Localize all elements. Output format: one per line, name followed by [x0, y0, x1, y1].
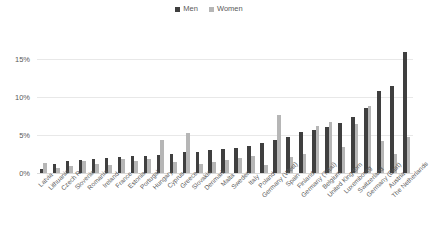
bar-women	[277, 115, 281, 173]
x-axis-label-cell: Spain	[283, 176, 296, 238]
legend-swatch-women	[209, 7, 214, 12]
y-axis-tick-label: 10%	[15, 94, 30, 102]
bar-women	[134, 161, 138, 173]
legend-label-men: Men	[183, 5, 198, 13]
x-axis-label-cell: Sweden	[232, 176, 245, 238]
bar-group	[141, 40, 154, 173]
bar-group	[400, 40, 413, 173]
bar-women	[173, 162, 177, 173]
y-axis-tick-label: 15%	[15, 56, 30, 64]
legend-swatch-men	[175, 7, 180, 12]
bar-women	[303, 154, 307, 173]
chart-legend: Men Women	[0, 2, 418, 16]
bar-women	[238, 158, 242, 173]
bar-group	[167, 40, 180, 173]
bar-group	[309, 40, 322, 173]
bar-women	[407, 137, 411, 173]
bar-group	[206, 40, 219, 173]
bar-women	[342, 147, 346, 173]
bar-group	[387, 40, 400, 173]
y-axis-tick-label: 5%	[19, 132, 30, 140]
bar-women	[160, 140, 164, 173]
x-axis-label-cell: Germany (West)	[270, 176, 283, 238]
x-axis-label-cell: France	[115, 176, 128, 238]
y-axis: 0%5%10%15%	[0, 40, 34, 174]
bar-group	[232, 40, 245, 173]
bar-group	[193, 40, 206, 173]
bar-women	[368, 106, 372, 173]
bar-group	[245, 40, 258, 173]
bar-group	[335, 40, 348, 173]
plot-area	[37, 40, 413, 174]
bar-series-container	[37, 40, 413, 173]
bar-women	[212, 162, 216, 173]
bar-group	[115, 40, 128, 173]
bar-women	[186, 133, 190, 173]
bar-group	[296, 40, 309, 173]
legend-label-women: Women	[217, 5, 243, 13]
bar-group	[283, 40, 296, 173]
bar-group	[374, 40, 387, 173]
bar-group	[50, 40, 63, 173]
bar-group	[257, 40, 270, 173]
bar-group	[102, 40, 115, 173]
bar-group	[89, 40, 102, 173]
bar-group	[63, 40, 76, 173]
y-axis-tick-label: 0%	[19, 170, 30, 178]
x-axis-label-cell: Germany (East)	[374, 176, 387, 238]
x-axis-label-cell: Romania	[89, 176, 102, 238]
x-axis-label-cell: Denmark	[206, 176, 219, 238]
bar-group	[348, 40, 361, 173]
x-axis-label-cell: The Netherlands	[400, 176, 413, 238]
bar-women	[264, 165, 268, 173]
bar-women	[199, 164, 203, 173]
bar-group	[37, 40, 50, 173]
bar-group	[154, 40, 167, 173]
bar-group	[270, 40, 283, 173]
bar-women	[316, 126, 320, 173]
x-axis-label-cell: Italy	[245, 176, 258, 238]
x-axis-labels: LatviaLithuaniaCzech R.SloveniaRomaniaIr…	[37, 176, 413, 238]
x-axis-label-cell: Ireland	[102, 176, 115, 238]
bar-group	[180, 40, 193, 173]
x-axis-label-cell: Cyprus	[167, 176, 180, 238]
legend-entry-men: Men	[175, 5, 198, 13]
bar-group	[219, 40, 232, 173]
bar-group	[322, 40, 335, 173]
bar-group	[76, 40, 89, 173]
bar-group	[361, 40, 374, 173]
bar-women	[147, 159, 151, 173]
bar-group	[128, 40, 141, 173]
bar-women	[121, 159, 125, 173]
bar-women	[251, 156, 255, 173]
x-axis-label-cell: Hungary	[154, 176, 167, 238]
legend-entry-women: Women	[209, 5, 243, 13]
